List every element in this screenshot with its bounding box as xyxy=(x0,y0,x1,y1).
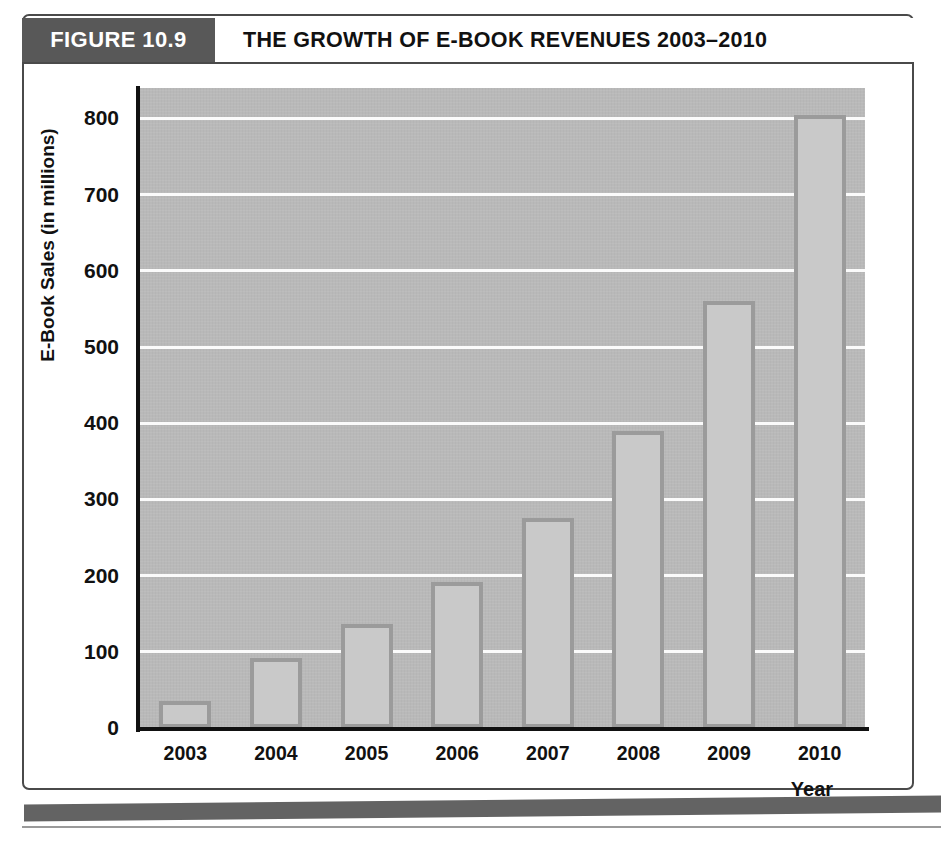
figure-title-cell: THE GROWTH OF E-BOOK REVENUES 2003–2010 xyxy=(215,18,914,62)
chart-region: E-Book Sales (in millions) 0100200300400… xyxy=(22,64,914,774)
x-tick-label: 2003 xyxy=(140,742,230,765)
footer-rule xyxy=(24,796,941,822)
x-axis-line xyxy=(136,727,869,731)
figure-header: FIGURE 10.9 THE GROWTH OF E-BOOK REVENUE… xyxy=(22,18,914,62)
x-tick-label: 2006 xyxy=(412,742,502,765)
bar xyxy=(341,624,393,728)
x-tick-label: 2005 xyxy=(322,742,412,765)
gridline xyxy=(140,193,865,196)
bar xyxy=(522,518,574,728)
x-tick-label: 2007 xyxy=(503,742,593,765)
bar xyxy=(703,301,755,728)
plot-area xyxy=(140,88,865,728)
y-tick-label: 200 xyxy=(49,565,119,586)
x-tick-label: 2004 xyxy=(231,742,321,765)
y-tick-label: 300 xyxy=(49,488,119,509)
y-tick-label: 100 xyxy=(49,641,119,662)
gridline xyxy=(140,574,865,577)
gridline xyxy=(140,650,865,653)
bar xyxy=(159,701,211,728)
y-axis-line xyxy=(136,86,140,732)
gridline xyxy=(140,269,865,272)
figure-number-tab: FIGURE 10.9 xyxy=(22,18,215,62)
page-bottom-edge xyxy=(22,826,941,828)
x-tick-label: 2009 xyxy=(684,742,774,765)
bar xyxy=(250,658,302,728)
y-tick-label: 600 xyxy=(49,260,119,281)
bar xyxy=(794,115,846,728)
gridline xyxy=(140,498,865,501)
figure-title: THE GROWTH OF E-BOOK REVENUES 2003–2010 xyxy=(243,28,767,53)
gridline xyxy=(140,422,865,425)
y-tick-label: 800 xyxy=(49,107,119,128)
bar xyxy=(431,582,483,728)
y-tick-label: 0 xyxy=(49,717,119,738)
y-tick-label: 700 xyxy=(49,184,119,205)
y-tick-label: 500 xyxy=(49,336,119,357)
bar xyxy=(612,431,664,728)
y-tick-label: 400 xyxy=(49,412,119,433)
x-tick-label: 2010 xyxy=(775,742,865,765)
x-tick-label: 2008 xyxy=(593,742,683,765)
gridline xyxy=(140,346,865,349)
gridline xyxy=(140,117,865,120)
